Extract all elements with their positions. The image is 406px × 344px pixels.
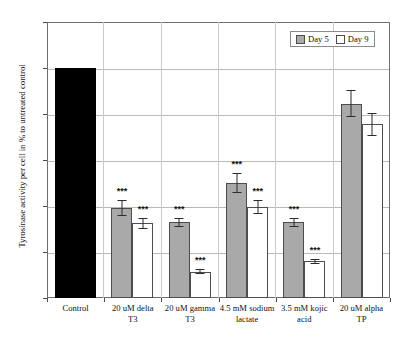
x-axis-label: 20 uM alpha TP [333, 303, 390, 325]
y-axis-title: Tyrosinase activity per cell in % to unt… [17, 31, 27, 281]
bar-group [47, 22, 104, 298]
bar-wrapper [341, 22, 362, 298]
x-axis-ticks [47, 298, 390, 302]
bar-day9[interactable] [304, 261, 325, 298]
significance-marker: *** [174, 205, 185, 214]
legend-swatch-day9-icon [336, 35, 345, 44]
x-axis-label-line: T3 [162, 314, 217, 325]
significance-marker: *** [117, 187, 128, 196]
significance-marker: *** [138, 205, 149, 214]
chart-legend: Day 5 Day 9 [290, 31, 375, 47]
legend-item-day5: Day 5 [296, 34, 329, 44]
bar-day5[interactable] [169, 222, 190, 298]
x-axis-label: 4.5 mM sodiumlactate [219, 303, 276, 325]
significance-marker: *** [195, 256, 206, 265]
bar-day9[interactable] [132, 223, 153, 298]
bar-group: ****** [219, 22, 276, 298]
bars-container: ****** [276, 22, 332, 298]
x-tick-mark [219, 298, 220, 302]
bars-container: ****** [104, 22, 160, 298]
bar-wrapper: *** [132, 22, 153, 298]
x-tick-mark [161, 298, 162, 302]
significance-marker: *** [310, 246, 321, 255]
legend-label-day5: Day 5 [308, 34, 329, 44]
error-bar [179, 218, 180, 227]
error-bar [351, 90, 352, 118]
x-axis-label-line: 3.5 mM kojic [277, 303, 332, 314]
error-bar [293, 218, 294, 227]
x-axis-label-line: 20 uM gamma [162, 303, 217, 314]
x-axis-label-line: lactate [220, 314, 275, 325]
error-bar [121, 200, 122, 216]
bar-day5[interactable] [341, 104, 362, 298]
bar-wrapper: *** [226, 22, 247, 298]
bar-group: ****** [276, 22, 333, 298]
x-axis-label-line: 20 uM delta [105, 303, 160, 314]
bar-group [334, 22, 390, 298]
x-axis-label-line: Control [48, 303, 103, 314]
bars-container [47, 22, 103, 298]
error-bar [372, 113, 373, 136]
bar-day5[interactable] [111, 208, 132, 298]
chart-figure: Tyrosinase activity per cell in % to unt… [0, 0, 406, 344]
error-bar [236, 173, 237, 194]
x-axis-label-line: T3 [105, 314, 160, 325]
x-tick-mark [47, 298, 48, 302]
x-tick-mark [104, 298, 105, 302]
x-tick-mark [390, 298, 391, 302]
bar-wrapper: *** [169, 22, 190, 298]
bar-day9[interactable] [190, 272, 211, 298]
bars-container: ****** [219, 22, 275, 298]
bar-wrapper [362, 22, 383, 298]
bar-groups: ************************ [47, 22, 390, 298]
significance-marker: *** [231, 160, 242, 169]
x-axis-labels: Control20 uM deltaT320 uM gammaT34.5 mM … [47, 303, 390, 325]
legend-swatch-day5-icon [296, 35, 305, 44]
error-bar [257, 200, 258, 214]
legend-label-day9: Day 9 [348, 34, 369, 44]
bar-day9[interactable] [247, 207, 268, 298]
bar-wrapper: *** [304, 22, 325, 298]
x-axis-label: Control [47, 303, 104, 325]
significance-marker: *** [252, 187, 263, 196]
bar-group: ****** [104, 22, 161, 298]
bar-control[interactable] [55, 68, 96, 298]
error-bar [142, 218, 143, 230]
bar-day5[interactable] [283, 222, 304, 298]
bar-day9[interactable] [362, 124, 383, 298]
significance-marker: *** [289, 205, 300, 214]
bar-wrapper: *** [111, 22, 132, 298]
x-axis-label-line: 4.5 mM sodium [220, 303, 275, 314]
x-axis-label-line: acid [277, 314, 332, 325]
x-axis-label: 3.5 mM kojicacid [276, 303, 333, 325]
bar-wrapper [55, 22, 96, 298]
error-bar [314, 259, 315, 264]
x-tick-mark [333, 298, 334, 302]
bar-group: ****** [162, 22, 219, 298]
x-tick-mark [276, 298, 277, 302]
bar-wrapper: *** [190, 22, 211, 298]
bars-container [334, 22, 390, 298]
error-bar [200, 269, 201, 274]
x-axis-label-line: 20 uM alpha TP [334, 303, 389, 325]
bar-day5[interactable] [226, 183, 247, 298]
bars-container: ****** [162, 22, 218, 298]
legend-item-day9: Day 9 [336, 34, 369, 44]
x-axis-label: 20 uM deltaT3 [104, 303, 161, 325]
x-axis-label: 20 uM gammaT3 [161, 303, 218, 325]
bar-wrapper: *** [283, 22, 304, 298]
bar-wrapper: *** [247, 22, 268, 298]
